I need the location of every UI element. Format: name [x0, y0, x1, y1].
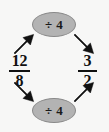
operation-label-bottom: ÷ 4: [45, 104, 63, 117]
operation-label-top: ÷ 4: [45, 18, 63, 31]
arrow-up-right-icon: [11, 31, 37, 57]
arrow-down-right-icon: [11, 79, 37, 105]
fraction-simplification-diagram: ÷ 4 ÷ 4 12 8 3 2: [0, 0, 109, 132]
operation-bubble-bottom: ÷ 4: [32, 98, 76, 123]
arrow-down-right-icon: [71, 31, 97, 57]
operation-bubble-top: ÷ 4: [32, 12, 76, 37]
arrow-up-right-icon: [71, 79, 97, 105]
